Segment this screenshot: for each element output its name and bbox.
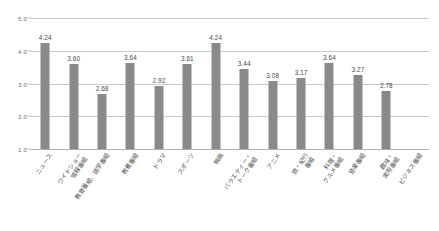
bar-value-label: 2.68 <box>96 85 109 92</box>
gridline <box>31 149 429 150</box>
bar-item[interactable]: 2.78 <box>372 18 400 149</box>
x-axis-label: スポーツ <box>176 152 196 176</box>
bar-item[interactable]: 2.68 <box>88 18 116 149</box>
y-axis-tick-label: 5.0 <box>18 15 27 22</box>
bar-item[interactable]: 3.08 <box>258 18 286 149</box>
bar-value-label: 4.24 <box>39 34 52 41</box>
x-axis-label: バラエティー・トーク番組 <box>223 152 260 195</box>
y-axis-tick-label: 1.0 <box>18 146 27 153</box>
bar-item[interactable]: 3.60 <box>59 18 87 149</box>
x-axis-label: ニュース <box>34 152 54 176</box>
x-axis-category-labels: ニュースワイドショー情報番組教育番組、語学番組教養番組ドラマスポーツ映画バラエテ… <box>31 152 429 231</box>
bar-rect[interactable] <box>382 91 391 149</box>
bar-series: 4.243.602.683.642.923.614.243.443.083.17… <box>31 18 429 149</box>
bar-value-label: 3.27 <box>351 66 364 73</box>
bar-rect[interactable] <box>297 78 306 149</box>
bar-value-label: 4.24 <box>209 34 222 41</box>
y-axis-tick-label: 3.0 <box>18 80 27 87</box>
bar-item[interactable]: 3.61 <box>173 18 201 149</box>
x-axis-label: 旅・紀行番組 <box>290 152 316 180</box>
bar-value-label: 3.64 <box>124 54 137 61</box>
bar-value-label: 3.17 <box>295 69 308 76</box>
bar-item[interactable]: 2.92 <box>145 18 173 149</box>
bar-value-label: 2.78 <box>380 82 393 89</box>
bar-rect[interactable] <box>41 43 50 149</box>
bar-rect[interactable] <box>183 64 192 149</box>
x-axis-label: 料理・グルメ番組 <box>315 152 345 185</box>
bar-item[interactable]: 3.44 <box>230 18 258 149</box>
x-axis-label: ドラマ <box>151 152 168 171</box>
x-axis-label: 映画 <box>212 152 225 166</box>
bar-item[interactable]: 4.24 <box>202 18 230 149</box>
bar-rect[interactable] <box>240 69 249 149</box>
y-axis-tick-label: 2.0 <box>18 113 27 120</box>
bar-value-label: 3.64 <box>323 54 336 61</box>
x-axis-label: ビジネス番組 <box>397 152 424 186</box>
bar-value-label: 3.08 <box>266 72 279 79</box>
bar-rect[interactable] <box>325 63 334 149</box>
bar-rect[interactable] <box>154 86 163 149</box>
bar-item[interactable]: 3.17 <box>287 18 315 149</box>
bar-rect[interactable] <box>98 94 107 149</box>
x-axis-label: 教養番組 <box>120 152 140 176</box>
bar-value-label: 2.92 <box>152 77 165 84</box>
bar-item[interactable]: 3.64 <box>116 18 144 149</box>
bar-rect[interactable] <box>69 64 78 149</box>
bar-item[interactable]: 4.24 <box>31 18 59 149</box>
x-axis-label: 音楽番組 <box>347 152 367 176</box>
bar-value-label: 3.44 <box>238 60 251 67</box>
bar-value-label: 3.61 <box>181 55 194 62</box>
bar-rect[interactable] <box>211 43 220 149</box>
x-axis-label: アニメ <box>265 152 282 171</box>
bar-value-label: 3.60 <box>67 55 80 62</box>
x-axis-label: 趣味・実用番組 <box>375 152 401 180</box>
bar-rect[interactable] <box>353 75 362 149</box>
bar-chart: 1.02.03.04.05.0 4.243.602.683.642.923.61… <box>0 0 439 231</box>
bar-rect[interactable] <box>268 81 277 149</box>
bar-item[interactable]: 3.27 <box>344 18 372 149</box>
bar-item[interactable]: 3.64 <box>315 18 343 149</box>
plot-area: 1.02.03.04.05.0 4.243.602.683.642.923.61… <box>31 18 429 149</box>
bar-rect[interactable] <box>126 63 135 149</box>
y-axis-tick-label: 4.0 <box>18 47 27 54</box>
